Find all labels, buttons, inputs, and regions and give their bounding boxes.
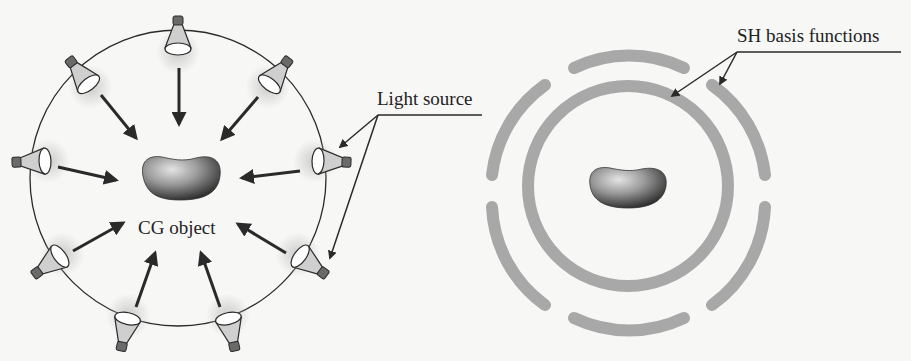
- light-bulb-icon: [156, 16, 200, 74]
- light-bulb-icon: [99, 290, 154, 356]
- light-bulb-icon: [202, 290, 257, 356]
- cg-object-icon: [590, 168, 667, 208]
- sh-basis-callout: [672, 52, 901, 96]
- light-bulb-icon: [11, 138, 71, 184]
- cg-object-icon: [142, 157, 220, 200]
- light-source-callout: [330, 115, 482, 258]
- cg-object-label: CG object: [138, 218, 216, 237]
- sh-basis-functions-label: SH basis functions: [737, 26, 880, 45]
- diagram-canvas: [0, 0, 911, 361]
- light-bulb-icon: [267, 224, 340, 294]
- light-bulb-icon: [237, 45, 307, 118]
- left-panel: [11, 16, 482, 355]
- right-panel: [492, 52, 901, 330]
- light-bulb-icon: [20, 224, 93, 294]
- figure: Light source CG object SH basis function…: [0, 0, 911, 361]
- light-source-label: Light source: [377, 89, 473, 108]
